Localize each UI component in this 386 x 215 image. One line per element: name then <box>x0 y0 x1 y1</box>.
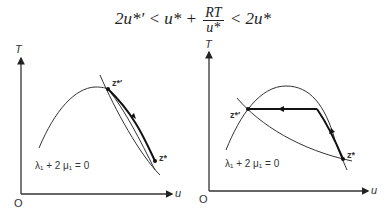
left-point-lower <box>153 159 157 163</box>
left-point-upper-label: z*′ <box>112 78 122 88</box>
right-point-lower-label: z* <box>347 150 356 160</box>
phase-diagrams: T u O z*′ z* λ₁ + 2 μ₁ = 0 T u O z*′ z* … <box>0 0 386 215</box>
left-point-lower-label: z* <box>159 153 168 163</box>
left-origin-label: O <box>14 197 23 209</box>
right-horizontal-arrow-icon <box>278 106 284 112</box>
right-point-lower <box>341 157 345 161</box>
right-equation-label: λ₁ + 2 μ₁ = 0 <box>225 158 280 169</box>
right-decreasing-curve <box>237 98 352 161</box>
right-x-axis-label: u <box>371 184 377 196</box>
right-point-upper <box>246 107 250 111</box>
left-point-upper <box>106 87 110 91</box>
right-descending-trajectory <box>317 109 343 159</box>
left-parabola-curve <box>39 87 155 170</box>
right-panel: T u O z*′ z* λ₁ + 2 μ₁ = 0 <box>199 38 377 205</box>
left-equation-label: λ₁ + 2 μ₁ = 0 <box>35 160 90 171</box>
left-panel: T u O z*′ z* λ₁ + 2 μ₁ = 0 <box>14 43 181 209</box>
left-y-axis-label: T <box>15 43 23 55</box>
right-y-axis-label: T <box>205 38 213 50</box>
left-x-axis-label: u <box>175 187 181 199</box>
right-point-upper-label: z*′ <box>230 110 240 120</box>
right-origin-label: O <box>199 193 208 205</box>
